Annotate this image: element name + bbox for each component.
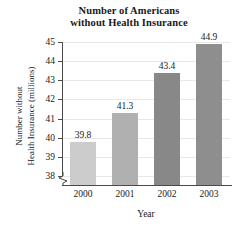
chart-title-line-1: Number of Americans [26,5,232,17]
axis-break-icon [58,172,68,186]
y-tick-label: 38 [33,171,55,181]
bar-value-label: 44.9 [201,32,218,42]
bar: 44.9 [196,44,222,185]
y-tick-label: 45 [33,37,55,47]
bar: 43.4 [154,73,180,185]
chart-title-line-2: without Health Insurance [26,17,232,29]
bar-value-label: 41.3 [117,101,134,111]
x-tick-label: 2001 [116,189,135,199]
chart-title: Number of Americans without Health Insur… [26,5,232,29]
x-axis-spine [62,185,232,186]
bar-value-label: 43.4 [159,61,176,71]
y-tick-label: 40 [33,133,55,143]
gridline [62,42,230,43]
plot-area: 3839404142434445 39.841.343.444.9 200020… [62,42,230,185]
bar: 41.3 [112,113,138,185]
y-tick-label: 41 [33,114,55,124]
bar: 39.8 [70,142,96,185]
y-tick-label: 39 [33,152,55,162]
bar-chart-figure: Number of Americans without Health Insur… [0,0,252,233]
x-tick-label: 2002 [158,189,177,199]
y-tick-label: 44 [33,56,55,66]
y-axis-spine [62,42,63,176]
y-axis-title-line-1: Number without [14,67,26,166]
y-tick-label: 42 [33,94,55,104]
x-axis-title: Year [62,209,230,219]
x-tick-label: 2000 [74,189,93,199]
bar-value-label: 39.8 [75,130,92,140]
y-tick-label: 43 [33,75,55,85]
x-tick-label: 2003 [200,189,219,199]
